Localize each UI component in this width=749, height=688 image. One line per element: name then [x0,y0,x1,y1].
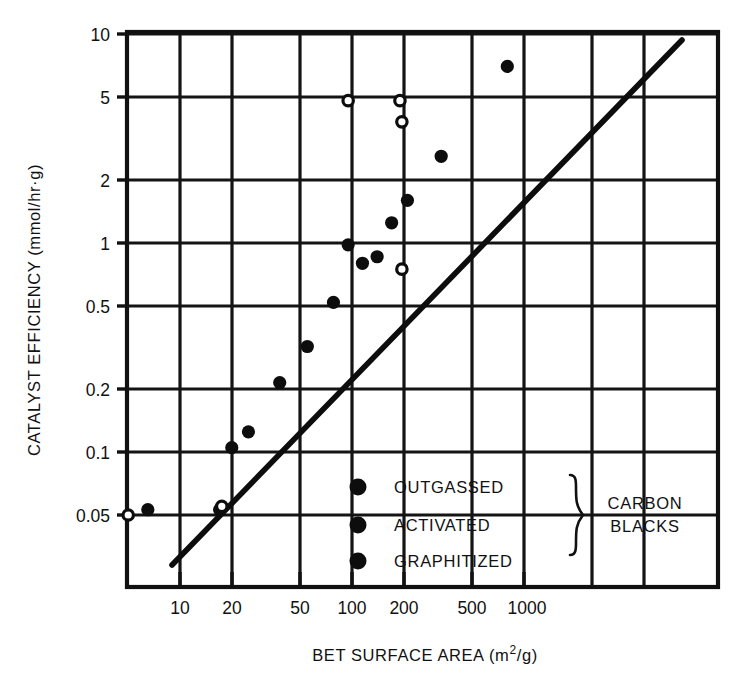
ytick-label-10: 10 [91,25,111,45]
data-point-activated [343,95,353,105]
data-point-outgassed [301,340,314,353]
data-point-outgassed [435,150,448,163]
legend: OUTGASSED ACTIVATED GRAPHITIZED CARBON B… [350,475,683,570]
x-axis-title-superscript: 2 [509,643,516,657]
data-point-outgassed [356,257,369,270]
x-axis-ticks [180,572,524,587]
legend-label-graphitized: GRAPHITIZED [394,552,513,570]
data-point-outgassed [342,238,355,251]
data-point-outgassed [401,194,414,207]
ytick-label-0.1: 0.1 [86,443,110,463]
catalyst-efficiency-vs-bet-surface-area-chart: 10 5 2 1 0.5 0.2 0.1 0.05 10 20 50 100 2… [0,0,749,688]
y-axis-title: CATALYST EFFICIENCY (mmol/hr·g) [25,164,43,456]
data-point-activated [217,501,227,511]
figure-container: 10 5 2 1 0.5 0.2 0.1 0.05 10 20 50 100 2… [0,0,749,688]
data-point-outgassed [273,376,286,389]
xtick-label-200: 200 [389,598,418,618]
x-axis-title: BET SURFACE AREA (m2/g) [312,643,538,664]
ytick-label-1: 1 [100,234,110,254]
legend-group-label-line2: BLACKS [610,517,679,535]
x-axis-title-suffix: /g) [517,646,538,664]
xtick-label-100: 100 [337,598,366,618]
data-point-activated [397,117,407,127]
legend-group-label-line1: CARBON [608,494,683,512]
xtick-label-1000: 1000 [508,598,547,618]
xtick-label-50: 50 [290,598,310,618]
y-axis-tick-labels: 10 5 2 1 0.5 0.2 0.1 0.05 [76,25,110,526]
ytick-label-0.5: 0.5 [86,297,110,317]
legend-label-outgassed: OUTGASSED [394,478,504,496]
legend-marker-outgassed [350,479,367,496]
data-point-outgassed [141,503,154,516]
ytick-label-2: 2 [100,171,110,191]
data-point-activated [123,510,133,520]
xtick-label-10: 10 [170,598,190,618]
xtick-label-500: 500 [457,598,486,618]
data-point-outgassed [385,216,398,229]
data-point-outgassed [225,441,238,454]
xtick-label-20: 20 [222,598,242,618]
ytick-label-0.05: 0.05 [76,506,110,526]
data-point-outgassed [327,296,340,309]
data-point-outgassed [371,250,384,263]
legend-marker-graphitized [350,553,367,570]
ytick-label-0.2: 0.2 [86,380,110,400]
data-point-outgassed [242,425,255,438]
data-point-outgassed [501,60,514,73]
data-point-activated [395,95,405,105]
x-axis-title-prefix: BET SURFACE AREA (m [312,646,509,664]
x-axis-tick-labels: 10 20 50 100 200 500 1000 [170,598,546,618]
data-point-activated [397,264,407,274]
legend-label-activated: ACTIVATED [394,516,490,534]
legend-marker-activated [350,517,367,534]
ytick-label-5: 5 [100,88,110,108]
